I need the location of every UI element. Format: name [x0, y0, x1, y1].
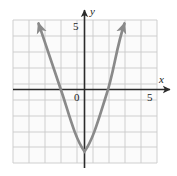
x-axis-name-label: x	[159, 74, 164, 85]
x-axis-tick-label-5: 5	[147, 92, 153, 103]
y-axis-name-label: y	[90, 6, 95, 17]
graph-figure: y x 5 5 0	[0, 0, 177, 176]
origin-label: 0	[74, 92, 80, 103]
y-axis-tick-label-5: 5	[73, 21, 79, 32]
coordinate-plane-svg	[0, 0, 177, 176]
